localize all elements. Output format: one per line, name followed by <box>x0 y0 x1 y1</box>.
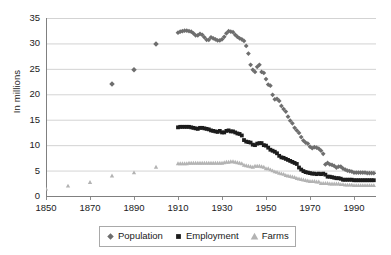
y-tick-label: 30 <box>6 38 40 48</box>
data-point <box>109 81 115 87</box>
data-point <box>154 165 158 169</box>
legend-label: Employment <box>186 231 239 241</box>
series-population <box>109 28 376 175</box>
y-tick-label: 15 <box>6 115 40 125</box>
legend-item-farms[interactable]: Farms <box>250 231 289 241</box>
plot-canvas <box>46 18 376 202</box>
data-point <box>286 114 291 119</box>
data-point <box>46 187 48 191</box>
y-tick-label: 25 <box>6 64 40 74</box>
diamond-marker-icon <box>106 232 115 241</box>
data-point <box>240 134 244 138</box>
x-tick-label: 1950 <box>246 203 286 213</box>
data-point <box>153 41 159 47</box>
x-tick-label: 1850 <box>26 203 66 213</box>
x-tick-label: 1990 <box>334 203 374 213</box>
y-tick-label: 20 <box>6 89 40 99</box>
data-point <box>131 67 137 73</box>
data-point <box>66 184 70 188</box>
data-point <box>372 178 376 182</box>
y-tick-label: 10 <box>6 140 40 150</box>
y-tick-label: 0 <box>6 191 40 201</box>
triangle-marker-icon <box>250 232 259 241</box>
x-tick-label: 1870 <box>70 203 110 213</box>
legend-label: Farms <box>262 231 289 241</box>
plot-area <box>46 18 376 196</box>
y-tick-label: 5 <box>6 166 40 176</box>
square-marker-icon <box>174 232 183 241</box>
x-tick-label: 1930 <box>202 203 242 213</box>
legend-item-employment[interactable]: Employment <box>174 231 239 241</box>
data-point <box>246 51 251 56</box>
data-point <box>299 135 304 140</box>
data-point <box>110 173 114 177</box>
x-tick-label: 1910 <box>158 203 198 213</box>
legend-label: Population <box>118 231 163 241</box>
x-tick-label: 1970 <box>290 203 330 213</box>
data-point <box>88 180 92 184</box>
data-point <box>248 62 253 67</box>
data-point <box>250 232 258 239</box>
y-tick-label: 35 <box>6 13 40 23</box>
x-tick-label: 1890 <box>114 203 154 213</box>
data-point <box>107 233 114 240</box>
chart-legend: PopulationEmploymentFarms <box>99 226 296 247</box>
data-point <box>295 162 299 166</box>
legend-item-population[interactable]: Population <box>106 231 163 241</box>
data-point <box>270 92 275 97</box>
chart-figure: In millions 05101520253035 1850187018901… <box>0 0 391 255</box>
data-point <box>264 77 269 82</box>
data-point <box>176 234 181 239</box>
